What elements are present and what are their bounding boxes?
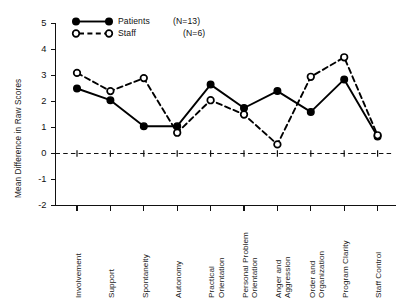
data-point [107,88,114,95]
x-tick-label: Personal Problem [241,232,250,298]
legend-sample-marker [106,18,113,25]
y-tick-label: 1 [31,122,47,132]
x-tick-label: Staff Control [374,251,383,297]
y-tick-label: 3 [31,70,47,80]
zero-reference-line [56,150,395,156]
data-point [308,74,315,81]
data-point [207,97,214,104]
y-tick-label: 2 [31,96,47,106]
data-point [374,132,381,139]
y-ticks [51,24,56,206]
data-point [141,123,148,130]
data-point [207,81,214,88]
data-point [74,70,81,77]
y-tick-label: -1 [31,174,47,184]
x-tick-label: Support [107,268,116,297]
legend-sample-size: (N=13) [173,16,200,26]
legend-label: Patients [118,16,150,26]
legend-sample-marker [73,30,80,37]
data-point [107,97,114,104]
x-tick-label: Organization [317,250,326,297]
series-staff [74,54,381,148]
legend-sample-marker [106,30,113,37]
data-point [274,141,281,148]
axis-lines [56,24,397,206]
y-tick-label: 0 [31,148,47,158]
data-point [74,85,81,92]
legend-markers [73,18,113,37]
x-tick-label: Autonomy [174,260,183,297]
series-line [77,57,378,144]
x-tick-label: Program Clarity [341,240,350,298]
x-tick-label: Involvement [74,253,83,298]
x-ticks [77,206,378,211]
x-tick-label: Aggression [283,256,292,298]
legend-sample-size: (N=6) [183,28,205,38]
y-tick-label: -2 [31,200,47,210]
chart-figure: Mean Difference in Raw Scores 543210-1-2… [0,0,409,298]
legend-sample-marker [73,18,80,25]
data-point [341,54,348,61]
x-tick-label: Spontaneity [141,254,150,298]
data-point [241,105,248,112]
data-point [274,88,281,95]
x-tick-label: Orientation [250,257,259,298]
legend-label: Staff [118,28,136,38]
data-point [308,109,315,116]
y-tick-label: 4 [31,44,47,54]
data-point [341,76,348,83]
data-point [174,129,181,136]
y-tick-label: 5 [31,18,47,28]
x-tick-label: Order and [308,260,317,297]
x-tick-label: Orientation [217,257,226,298]
data-point [141,75,148,82]
data-point [241,111,248,118]
x-tick-label: Practical [207,266,216,298]
x-tick-label: Anger and [274,259,283,297]
